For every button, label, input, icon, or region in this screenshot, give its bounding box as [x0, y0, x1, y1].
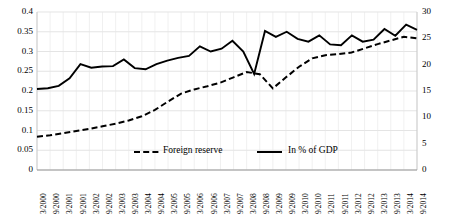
y-axis-left-tick: 0.05: [0, 145, 33, 154]
y-axis-right-tick: 0: [422, 165, 427, 174]
x-axis-tick: 3/2002: [93, 193, 101, 214]
series-line-in-of-gdp: [37, 25, 417, 89]
y-axis-left-tick: 0.1: [0, 126, 33, 135]
chart-plot-area: [0, 0, 455, 224]
y-axis-right-tick: 10: [422, 112, 431, 121]
x-axis-tick: 9/2006: [211, 193, 219, 214]
x-axis-tick: 3/2011: [328, 193, 336, 214]
x-axis-tick: 3/2009: [276, 193, 284, 214]
x-axis-tick: 9/2012: [368, 193, 376, 214]
y-axis-right-tick: 25: [422, 33, 431, 42]
x-axis-tick: 3/2003: [119, 193, 127, 214]
x-axis-tick: 9/2008: [263, 193, 271, 214]
y-axis-left-tick: 0.3: [0, 47, 33, 56]
y-axis-left-tick: 0.15: [0, 106, 33, 115]
x-axis-tick: 3/2001: [66, 193, 74, 214]
x-axis-tick: 9/2004: [158, 193, 166, 214]
chart-container: 00.050.10.150.20.250.30.350.405101520253…: [0, 0, 455, 224]
x-axis-tick: 3/2008: [250, 193, 258, 214]
x-axis-tick: 9/2005: [184, 193, 192, 214]
x-axis-tick: 3/2007: [224, 193, 232, 214]
x-axis-tick: 3/2006: [197, 193, 205, 214]
x-axis-tick: 3/2004: [145, 193, 153, 214]
legend-label-in-of-gdp: In % of GDP: [288, 146, 338, 156]
x-axis-tick: 9/2000: [53, 193, 61, 214]
x-axis-tick: 9/2011: [342, 193, 350, 214]
x-axis-tick: 9/2014: [420, 193, 428, 214]
x-axis-tick: 3/2013: [381, 193, 389, 214]
y-axis-left-tick: 0.2: [0, 86, 33, 95]
x-axis-tick: 3/2012: [355, 193, 363, 214]
x-axis-tick: 3/2005: [171, 193, 179, 214]
y-axis-left-tick: 0.4: [0, 7, 33, 16]
legend-label-foreign-reserve: Foreign reserve: [163, 146, 222, 156]
x-axis-tick: 9/2009: [289, 193, 297, 214]
y-axis-right-tick: 5: [422, 139, 427, 148]
x-axis-tick: 9/2001: [80, 193, 88, 214]
y-axis-right-tick: 15: [422, 86, 431, 95]
y-axis-left-tick: 0.35: [0, 27, 33, 36]
x-axis-tick: 9/2002: [106, 193, 114, 214]
x-axis-tick: 3/2000: [40, 193, 48, 214]
y-axis-right-tick: 30: [422, 7, 431, 16]
x-axis-tick: 9/2007: [237, 193, 245, 214]
x-axis-tick: 3/2010: [302, 193, 310, 214]
x-axis-tick: 9/2010: [315, 193, 323, 214]
y-axis-left-tick: 0: [0, 165, 33, 174]
y-axis-right-tick: 20: [422, 60, 431, 69]
x-axis-tick: 9/2003: [132, 193, 140, 214]
y-axis-left-tick: 0.25: [0, 66, 33, 75]
x-axis-tick: 3/2014: [407, 193, 415, 214]
x-axis-tick: 9/2013: [394, 193, 402, 214]
